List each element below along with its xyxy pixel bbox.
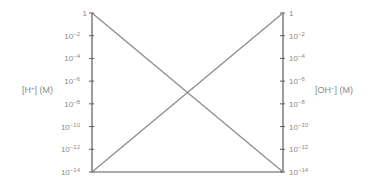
tick-label: 10−10 xyxy=(289,122,309,132)
series-lines xyxy=(92,13,283,172)
left-axis-ticks: 110−210−410−610−810−1010−1210−14 xyxy=(61,9,94,177)
tick-label: 10−10 xyxy=(61,122,81,132)
tick-label: 10−8 xyxy=(289,99,305,109)
tick-label: 10−12 xyxy=(289,144,309,154)
ph-chart: 110−210−410−610−810−1010−1210−14 110−210… xyxy=(0,0,377,192)
right-axis-title: [OH−] (M) xyxy=(315,85,353,95)
tick-label: 10−14 xyxy=(61,167,81,177)
tick-label: 10−2 xyxy=(289,31,305,41)
tick-label: 10−8 xyxy=(64,99,80,109)
tick-label: 10−6 xyxy=(64,76,80,86)
tick-label: 10−12 xyxy=(61,144,81,154)
tick-label: 10−6 xyxy=(289,76,305,86)
right-axis-ticks: 110−210−410−610−810−1010−1210−14 xyxy=(280,9,309,177)
tick-label: 10−4 xyxy=(64,53,80,63)
tick-label: 1 xyxy=(289,9,294,18)
tick-label: 10−2 xyxy=(64,31,80,41)
tick-label: 10−4 xyxy=(289,53,305,63)
left-axis-title: [H+] (M) xyxy=(22,85,53,95)
tick-label: 10−14 xyxy=(289,167,309,177)
tick-label: 1 xyxy=(83,9,88,18)
